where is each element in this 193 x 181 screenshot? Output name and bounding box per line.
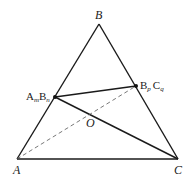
label-o: O (86, 116, 95, 130)
label-a: A (12, 163, 21, 177)
point-bpcq (134, 84, 138, 88)
label-b: B (95, 8, 103, 22)
point-ambn (53, 95, 57, 99)
label-bpcq: BpCq (140, 79, 164, 93)
label-ambn: AmBn (26, 90, 50, 104)
segment-ambn-bpcq (55, 86, 136, 97)
label-c: C (174, 163, 183, 177)
triangle-diagram: B A C O AmBn BpCq (0, 0, 193, 181)
